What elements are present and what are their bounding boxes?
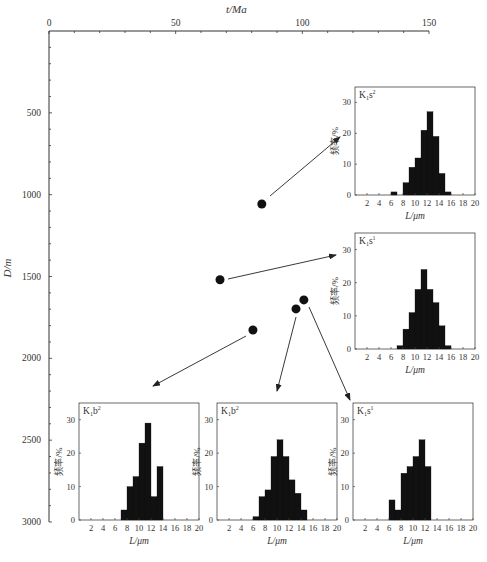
svg-text:8: 8 (399, 523, 403, 533)
y-tick-label: 3000 (22, 517, 41, 527)
svg-text:频率/%: 频率/% (191, 447, 202, 476)
arrow (277, 317, 296, 391)
histogram-bar (151, 497, 157, 520)
y-tick-label: 1500 (22, 272, 41, 282)
histogram-bar (415, 158, 421, 195)
svg-text:8: 8 (263, 523, 267, 533)
svg-text:18: 18 (321, 523, 330, 533)
svg-text:20: 20 (343, 278, 352, 288)
x-tick-label: 0 (47, 18, 52, 28)
svg-text:18: 18 (183, 523, 192, 533)
svg-text:14: 14 (297, 523, 306, 533)
svg-text:20: 20 (67, 448, 76, 458)
x-axis-title: t/Ma (226, 3, 247, 15)
histogram-bar (157, 467, 163, 520)
histogram-bar (283, 456, 289, 520)
histogram-bar (253, 517, 259, 520)
svg-text:10: 10 (343, 159, 352, 169)
svg-text:12: 12 (147, 523, 156, 533)
svg-text:16: 16 (445, 523, 454, 533)
histogram-bar (403, 329, 409, 349)
histogram-bar (395, 510, 401, 520)
y-tick-label: 2000 (22, 353, 41, 363)
x-tick-label: 50 (171, 18, 181, 28)
svg-text:16: 16 (171, 523, 180, 533)
svg-text:频率/%: 频率/% (53, 447, 64, 476)
svg-text:20: 20 (471, 198, 480, 208)
svg-text:20: 20 (205, 448, 214, 458)
histogram-bar (271, 456, 277, 520)
histogram-bar (121, 510, 127, 520)
svg-text:12: 12 (423, 352, 432, 362)
svg-text:2: 2 (365, 352, 369, 362)
svg-text:0: 0 (71, 515, 75, 525)
histogram-bar (439, 173, 445, 195)
svg-text:2: 2 (365, 198, 369, 208)
histogram-bar (427, 289, 433, 349)
arrow (309, 307, 350, 400)
svg-text:16: 16 (447, 198, 456, 208)
histogram-bar (139, 443, 145, 520)
histogram-bar (277, 440, 283, 520)
histogram-bar (419, 440, 425, 520)
svg-text:L/μm: L/μm (266, 536, 287, 546)
histograms: 24681012141618200102030L/μm频率/%K1s224681… (53, 87, 479, 546)
data-point (299, 295, 308, 304)
data-point (216, 275, 225, 284)
arrow (228, 255, 336, 279)
svg-text:4: 4 (377, 352, 382, 362)
svg-text:12: 12 (285, 523, 294, 533)
svg-text:18: 18 (459, 352, 468, 362)
svg-text:频率/%: 频率/% (327, 447, 338, 476)
svg-text:30: 30 (205, 415, 214, 425)
histogram-bar (445, 192, 451, 195)
svg-text:30: 30 (341, 415, 350, 425)
svg-text:0: 0 (209, 515, 213, 525)
svg-text:14: 14 (435, 352, 444, 362)
svg-text:10: 10 (411, 198, 420, 208)
data-point (257, 199, 266, 208)
svg-text:6: 6 (389, 198, 393, 208)
data-point (292, 304, 301, 313)
svg-text:16: 16 (309, 523, 318, 533)
svg-text:4: 4 (239, 523, 244, 533)
histogram-bar (397, 346, 403, 349)
svg-text:4: 4 (101, 523, 106, 533)
histogram-bar (409, 313, 415, 349)
svg-text:0: 0 (345, 515, 349, 525)
svg-text:10: 10 (67, 482, 76, 492)
histogram-bar (145, 423, 151, 520)
histogram-bar (421, 130, 427, 195)
svg-text:20: 20 (469, 523, 478, 533)
histogram-bar (415, 289, 421, 349)
arrow (153, 336, 246, 386)
histogram-bar (433, 136, 439, 195)
svg-text:30: 30 (343, 245, 352, 255)
histogram-bar (391, 192, 397, 195)
svg-text:30: 30 (343, 97, 352, 107)
histogram-bar (295, 493, 301, 520)
svg-text:L/μm: L/μm (128, 536, 149, 546)
svg-text:6: 6 (251, 523, 255, 533)
svg-text:18: 18 (459, 198, 468, 208)
svg-text:0: 0 (347, 344, 351, 354)
y-tick-label: 500 (27, 108, 42, 118)
histogram-bar (439, 326, 445, 349)
svg-text:6: 6 (387, 523, 391, 533)
svg-text:18: 18 (457, 523, 466, 533)
y-tick-label: 2500 (22, 435, 41, 445)
svg-text:30: 30 (67, 415, 76, 425)
svg-text:8: 8 (401, 352, 405, 362)
histogram-bar (427, 112, 433, 195)
svg-text:10: 10 (135, 523, 144, 533)
histogram-bar (265, 490, 271, 520)
histogram-bar (259, 497, 265, 520)
svg-text:频率/%: 频率/% (329, 126, 340, 155)
arrows (153, 137, 350, 400)
svg-text:10: 10 (409, 523, 418, 533)
svg-text:6: 6 (113, 523, 117, 533)
svg-text:10: 10 (411, 352, 420, 362)
y-axis-title: D/m (1, 259, 13, 278)
svg-text:12: 12 (421, 523, 430, 533)
histogram-bar (301, 510, 307, 520)
